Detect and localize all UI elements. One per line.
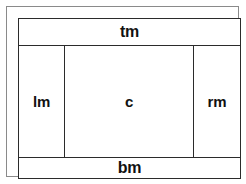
- left-margin-label: lm: [33, 94, 50, 109]
- region-top-margin: tm: [19, 19, 240, 46]
- page-box-diagram: tm lm c rm bm: [18, 18, 241, 179]
- region-right-margin: rm: [194, 46, 240, 157]
- top-margin-label: tm: [120, 24, 139, 40]
- region-left-margin: lm: [19, 46, 65, 157]
- outer-frame: tm lm c rm bm: [6, 6, 239, 177]
- region-content: c: [65, 46, 194, 157]
- middle-band: lm c rm: [19, 46, 240, 157]
- right-margin-label: rm: [208, 94, 227, 109]
- region-bottom-margin: bm: [19, 157, 240, 178]
- bottom-margin-label: bm: [118, 160, 142, 176]
- diagram-canvas: tm lm c rm bm: [0, 0, 246, 184]
- content-label: c: [125, 94, 133, 109]
